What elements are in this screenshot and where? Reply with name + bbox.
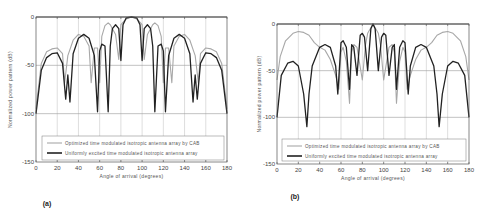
x-tick-label: 100: [379, 167, 390, 173]
legend-entry: Optimized time modulated isotropic anten…: [305, 144, 440, 149]
series-line-optimized: [277, 24, 469, 103]
x-tick-label: 160: [443, 167, 454, 173]
panel-label: (a): [43, 200, 52, 208]
x-tick-label: 20: [54, 165, 61, 171]
x-tick-label: 0: [275, 167, 279, 173]
x-tick-label: 60: [96, 165, 103, 171]
legend-entry: Uniformly excited time modulated isotrop…: [65, 151, 198, 156]
y-tick-label: -100: [263, 114, 276, 120]
x-tick-label: 40: [75, 165, 82, 171]
x-tick-label: 80: [118, 165, 125, 171]
chart-panel-a: 0204060801001201401601800-50-100-150Angl…: [7, 14, 233, 208]
x-tick-label: 140: [421, 167, 432, 173]
y-tick-label: -100: [22, 111, 35, 117]
y-tick-label: -50: [266, 68, 275, 74]
chart-panel-b: 0204060801001201401601800-50-100-150Angl…: [256, 21, 475, 201]
y-tick-label: -150: [263, 161, 276, 167]
x-tick-label: 140: [180, 165, 191, 171]
legend-entry: Uniformly excited time modulated isotrop…: [305, 154, 438, 159]
legend: Optimized time modulated isotropic anten…: [282, 139, 466, 161]
x-tick-label: 20: [295, 167, 302, 173]
y-axis-label: Normalized power pattern (dB): [256, 56, 262, 133]
x-tick-label: 120: [158, 165, 169, 171]
x-tick-label: 160: [201, 165, 212, 171]
x-tick-label: 60: [338, 167, 345, 173]
series-line-uniform: [277, 24, 469, 127]
x-axis-label: Angle of arrival (degrees): [100, 173, 164, 179]
series-line-optimized: [36, 17, 227, 109]
legend-box: [42, 136, 224, 160]
y-tick-label: 0: [272, 21, 276, 27]
y-tick-label: -150: [22, 159, 35, 165]
x-tick-label: 100: [137, 165, 148, 171]
x-tick-label: 180: [464, 167, 475, 173]
x-axis-label: Angle of arrival (degrees): [341, 175, 405, 181]
y-tick-label: -50: [25, 62, 34, 68]
x-tick-label: 120: [400, 167, 411, 173]
x-tick-label: 180: [222, 165, 233, 171]
x-tick-label: 40: [316, 167, 323, 173]
figure: 0204060801001201401601800-50-100-150Angl…: [0, 0, 489, 214]
panel-label: (b): [291, 193, 300, 201]
legend: Optimized time modulated isotropic anten…: [42, 136, 224, 160]
x-tick-label: 80: [359, 167, 366, 173]
x-tick-label: 0: [34, 165, 38, 171]
y-axis-label: Normalized power pattern (dB): [7, 51, 13, 128]
y-tick-label: 0: [31, 14, 35, 20]
legend-entry: Optimized time modulated isotropic anten…: [65, 141, 200, 146]
